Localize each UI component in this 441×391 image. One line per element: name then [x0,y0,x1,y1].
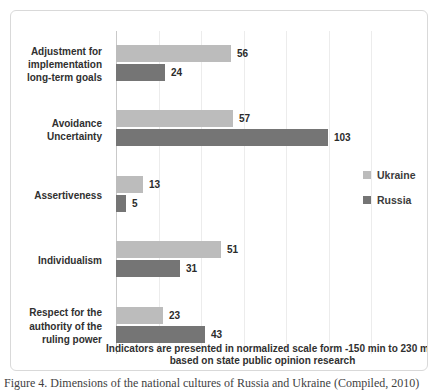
value-label: 57 [239,113,250,124]
bar-line: 57 [116,110,250,127]
bar-ukraine [116,45,231,62]
bar-chart: Adjustment for implementation long-term … [10,10,428,371]
legend-item-ukraine: Ukraine [363,169,416,181]
bar-ukraine [116,307,163,324]
bar-russia [116,195,126,212]
value-label: 43 [211,329,222,340]
note-line-2: based on state public opinion research [106,355,419,367]
value-label: 51 [227,244,238,255]
bar-ukraine [116,241,221,258]
category-row: Adjustment for implementation long-term … [11,32,427,97]
bar-line: 24 [116,64,182,81]
bar-russia [116,64,165,81]
bar-russia [116,260,180,277]
value-label: 31 [186,263,197,274]
category-row: Avoidance Uncertainty57103 [11,97,427,162]
bar-line: 31 [116,260,197,277]
category-label: Respect for the authority of the ruling … [11,294,109,359]
category-label: Avoidance Uncertainty [11,97,109,162]
value-label: 103 [334,132,351,143]
category-label: Adjustment for implementation long-term … [11,32,109,97]
bar-ukraine [116,110,233,127]
axis-note: Indicators are presented in normalized s… [106,343,419,367]
bar-ukraine [116,176,143,193]
value-label: 5 [132,198,138,209]
bar-line: 23 [116,307,180,324]
bar-line: 103 [116,129,351,146]
bar-line: 56 [116,45,248,62]
bar-line: 5 [116,195,138,212]
note-line-1: Indicators are presented in normalized s… [106,343,419,355]
category-row: Individualism5131 [11,228,427,293]
value-label: 13 [149,179,160,190]
bar-line: 13 [116,176,160,193]
value-label: 56 [237,48,248,59]
category-label: Individualism [11,228,109,293]
legend-swatch-russia [363,196,371,204]
value-label: 23 [169,310,180,321]
bar-russia [116,129,328,146]
bar-line: 51 [116,241,238,258]
bar-russia [116,326,205,343]
legend: Ukraine Russia [363,169,416,206]
value-label: 24 [171,67,182,78]
legend-swatch-ukraine [363,171,371,179]
figure-caption: Figure 4. Dimensions of the national cul… [4,376,441,391]
bar-line: 43 [116,326,222,343]
legend-label-russia: Russia [377,194,411,206]
category-label: Assertiveness [11,163,109,228]
legend-label-ukraine: Ukraine [377,169,416,181]
legend-item-russia: Russia [363,194,416,206]
